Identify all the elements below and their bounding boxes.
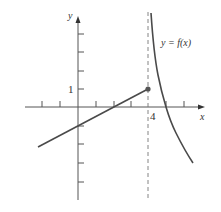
closed-endpoint-dot <box>145 86 150 91</box>
x-axis-arrow-icon <box>198 105 205 110</box>
linear-segment <box>38 89 148 147</box>
graph: y x 4 1 y = f(x) <box>0 0 221 212</box>
y-axis-arrow-icon <box>76 16 81 23</box>
x-ticks <box>42 101 184 107</box>
tick-label-x4: 4 <box>150 110 156 122</box>
x-axis-label: x <box>199 111 205 122</box>
tick-label-y1: 1 <box>68 83 74 95</box>
function-label: y = f(x) <box>160 37 192 49</box>
y-ticks <box>78 34 84 182</box>
curve-segment <box>151 13 193 163</box>
y-axis-label: y <box>67 10 73 21</box>
